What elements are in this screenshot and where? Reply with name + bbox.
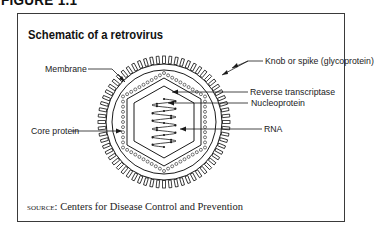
source-prefix: SOURCE: [27,201,58,212]
arrowhead [222,70,228,75]
label-membrane: Membrane [45,63,87,74]
arrowhead [116,129,122,134]
label-reverse-transcriptase: Reverse transcriptase [250,86,335,97]
label-nucleoprotein: Nucleoprotein [251,97,305,108]
label-rna: RNA [264,123,282,134]
nucleoprotein-dots [151,98,176,148]
source-text: Centers for Disease Control and Preventi… [58,201,243,212]
arrowhead [168,101,174,106]
source-citation: SOURCE: Centers for Disease Control and … [27,201,243,212]
label-core-protein: Core protein [31,125,79,136]
label-knob-or-spike: Knob or spike (glycoprotein) [265,55,374,66]
arrowhead [180,127,186,132]
arrowhead [172,90,178,95]
